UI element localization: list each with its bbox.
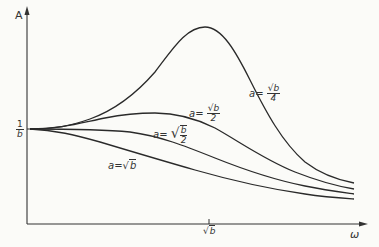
- curve2-prefix: a=: [189, 108, 204, 119]
- x-axis-arrow-icon: [359, 222, 368, 227]
- curve2-den: 2: [210, 114, 218, 123]
- curve1-den: 4: [270, 94, 278, 103]
- sqrt-symbol-icon: √: [203, 226, 209, 236]
- curve1-label: a= √b 4: [249, 84, 280, 103]
- resonance-diagram: [0, 0, 379, 247]
- curve4-label: a=√b: [108, 161, 136, 171]
- x-axis-label: ω: [350, 229, 359, 240]
- x-tick-radicand: b: [209, 225, 216, 236]
- y-tick-label: 1 b: [16, 120, 24, 139]
- curve4-radicand: b: [129, 159, 136, 171]
- curve-a-sqrtb-over-2: [30, 113, 354, 189]
- curve-a-sqrt-b: [30, 129, 354, 199]
- sqrt-symbol-icon: √: [123, 160, 129, 171]
- curve3-prefix: a=: [153, 129, 168, 140]
- y-axis-arrow-icon: [25, 6, 30, 15]
- curve3-den: 2: [180, 136, 188, 145]
- curve3-label: a= √ b 2: [153, 125, 187, 145]
- curve2-label: a= √b 2: [189, 104, 220, 123]
- sqrt-symbol-icon: √: [171, 125, 180, 141]
- y-axis-label: A: [15, 10, 23, 21]
- x-tick-label: √b: [203, 227, 215, 236]
- curve4-prefix: a=: [108, 160, 123, 171]
- curve1-prefix: a=: [249, 88, 264, 99]
- y-tick-den: b: [16, 130, 24, 139]
